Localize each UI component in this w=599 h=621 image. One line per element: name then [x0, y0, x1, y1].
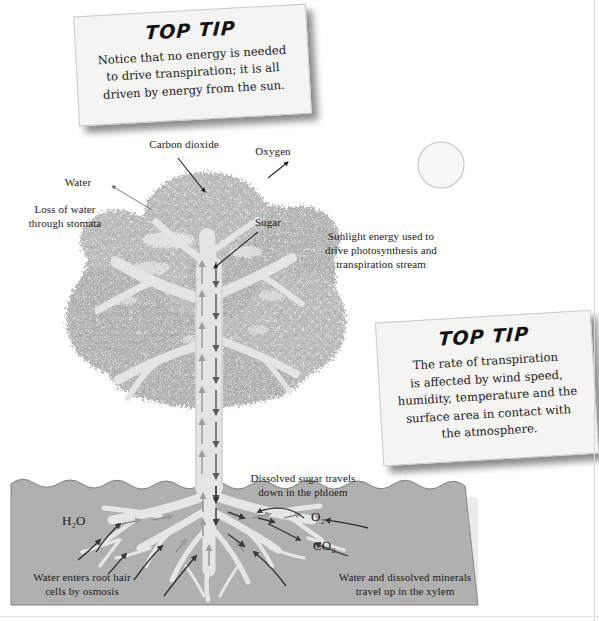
page-border-right — [594, 0, 595, 621]
sun-icon — [418, 142, 464, 188]
label-h2o: H₂O — [62, 513, 102, 529]
page-border-bottom — [0, 616, 599, 617]
label-oxygen: Oxygen — [228, 145, 318, 159]
label-sugar: Sugar — [238, 216, 298, 230]
label-water-enters-root-hair: Water enters root hair cells by osmosis — [12, 571, 152, 599]
leader-oxygen — [268, 162, 288, 178]
label-water: Water — [48, 176, 108, 190]
top-tip-box-2: TOP TIP The rate of transpiration is aff… — [375, 310, 599, 467]
label-dissolved-sugar-phloem: Dissolved sugar travels down in the phlo… — [228, 472, 378, 500]
label-sunlight-energy: Sunlight energy used to drive photosynth… — [305, 230, 457, 271]
label-loss-of-water-through-stomata: Loss of water through stomata — [10, 203, 120, 231]
label-o2: O₂ — [311, 509, 345, 525]
diagram-page: Carbon dioxide Oxygen Water Loss of wate… — [0, 0, 599, 621]
label-carbon-dioxide: Carbon dioxide — [124, 138, 244, 152]
top-tip-box-1: TOP TIP Notice that no energy is needed … — [73, 4, 312, 127]
top-tip-body: The rate of transpiration is affected by… — [388, 347, 587, 446]
top-tip-heading: TOP TIP — [387, 319, 582, 353]
top-tip-body: Notice that no energy is needed to drive… — [86, 41, 300, 105]
label-water-minerals-xylem: Water and dissolved minerals travel up i… — [330, 571, 480, 599]
label-co2: CO₂ — [313, 538, 353, 554]
